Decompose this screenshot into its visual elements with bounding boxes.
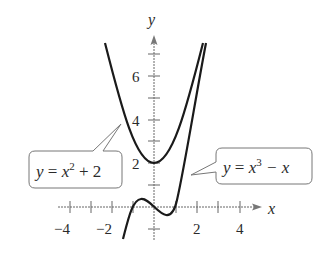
- label-var-y: y: [221, 158, 231, 177]
- svg-text:y = x2 + 2: y = x2 + 2: [34, 160, 101, 181]
- parabola-label: y = x2 + 2: [29, 124, 122, 188]
- x-tick-label: −2: [96, 221, 112, 237]
- label-rest: − x: [262, 158, 290, 177]
- label-equals: =: [44, 162, 62, 181]
- y-tick-label: 4: [132, 113, 140, 129]
- label-rest: + 2: [75, 162, 102, 181]
- y-tick-label: 2: [132, 156, 140, 172]
- label-equals: =: [231, 158, 249, 177]
- cubic-label: y = x3 − x: [191, 148, 312, 184]
- x-tick-label: 4: [236, 221, 244, 237]
- svg-text:y = x3 − x: y = x3 − x: [221, 156, 290, 177]
- x-tick-label: 2: [193, 221, 201, 237]
- x-axis-label: x: [267, 200, 275, 217]
- y-tick-label: 6: [132, 69, 140, 85]
- graph: x y −4 −2 2 4 2 4 6 y = x2 + 2 y = x3 − …: [0, 0, 328, 254]
- label-var-y: y: [34, 162, 44, 181]
- y-axis-label: y: [146, 11, 156, 29]
- x-tick-label: −4: [54, 221, 70, 237]
